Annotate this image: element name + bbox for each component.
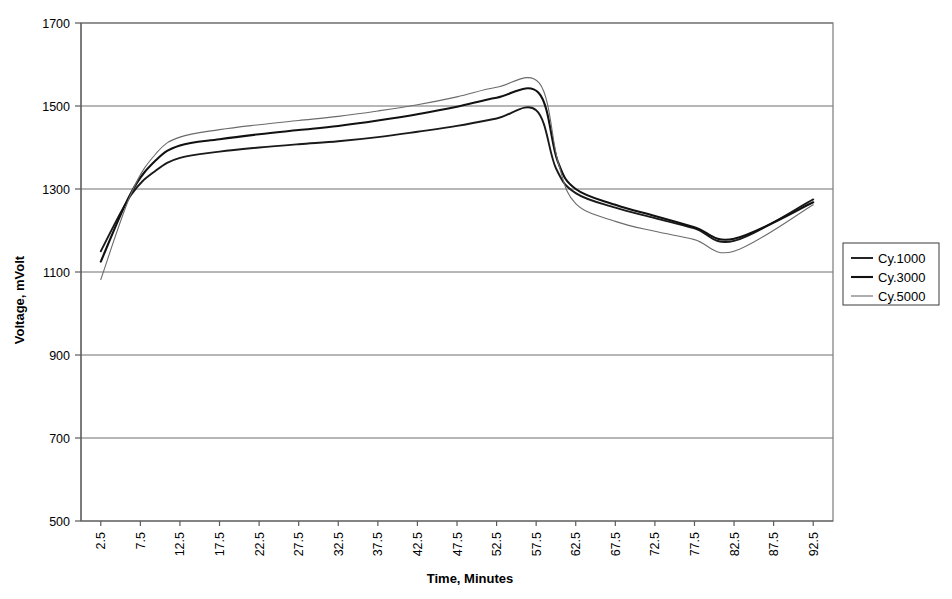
x-tick-label: 37.5 bbox=[371, 532, 385, 556]
data-series-group bbox=[101, 78, 813, 280]
y-tick-label: 700 bbox=[49, 432, 70, 446]
x-tick-label: 92.5 bbox=[807, 532, 821, 556]
y-axis: 5007009001100130015001700 bbox=[42, 17, 81, 529]
x-tick-label: 52.5 bbox=[490, 532, 504, 556]
y-tick-label: 900 bbox=[49, 349, 70, 363]
legend: Cy.1000Cy.3000Cy.5000 bbox=[843, 243, 939, 305]
x-tick-label: 72.5 bbox=[648, 532, 662, 556]
x-tick-label: 87.5 bbox=[767, 532, 781, 556]
x-tick-group: 2.57.512.517.522.527.532.537.542.547.552… bbox=[94, 521, 820, 556]
x-axis-title: Time, Minutes bbox=[427, 571, 513, 586]
gridlines bbox=[81, 23, 833, 438]
x-tick-label: 82.5 bbox=[728, 532, 742, 556]
x-tick-label: 67.5 bbox=[609, 532, 623, 556]
x-tick-label: 12.5 bbox=[173, 532, 187, 556]
x-tick-label: 57.5 bbox=[530, 532, 544, 556]
chart-container: 5007009001100130015001700 2.57.512.517.5… bbox=[0, 0, 952, 599]
legend-label-cy-1000: Cy.1000 bbox=[878, 251, 925, 266]
y-tick-label: 1500 bbox=[42, 100, 70, 114]
y-tick-group: 5007009001100130015001700 bbox=[42, 17, 81, 529]
y-axis-title: Voltage, mVolt bbox=[12, 255, 27, 344]
x-tick-label: 2.5 bbox=[94, 532, 108, 549]
x-tick-label: 32.5 bbox=[332, 532, 346, 556]
x-tick-label: 42.5 bbox=[411, 532, 425, 556]
y-tick-label: 500 bbox=[49, 515, 70, 529]
x-tick-label: 62.5 bbox=[569, 532, 583, 556]
x-tick-label: 47.5 bbox=[451, 532, 465, 556]
x-tick-label: 27.5 bbox=[292, 532, 306, 556]
voltage-vs-time-line-chart: 5007009001100130015001700 2.57.512.517.5… bbox=[0, 0, 952, 599]
legend-label-cy-5000: Cy.5000 bbox=[878, 289, 925, 304]
x-tick-label: 22.5 bbox=[253, 532, 267, 556]
y-tick-label: 1700 bbox=[42, 17, 70, 31]
x-tick-label: 77.5 bbox=[688, 532, 702, 556]
x-tick-label: 7.5 bbox=[134, 532, 148, 549]
x-axis: 2.57.512.517.522.527.532.537.542.547.552… bbox=[81, 521, 833, 556]
series-line-cy-1000 bbox=[101, 107, 813, 251]
legend-label-cy-3000: Cy.3000 bbox=[878, 270, 925, 285]
y-tick-label: 1100 bbox=[43, 266, 70, 280]
x-tick-label: 17.5 bbox=[213, 532, 227, 556]
y-tick-label: 1300 bbox=[42, 183, 70, 197]
